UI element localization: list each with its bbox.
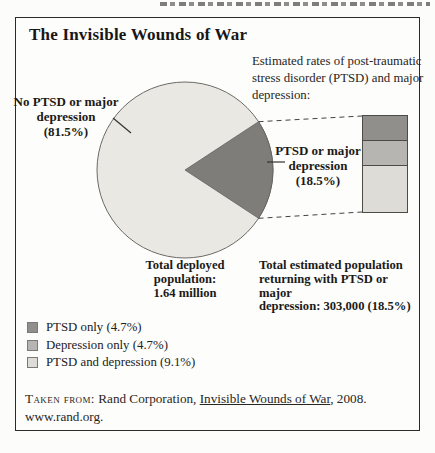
legend: PTSD only (4.7%)Depression only (4.7%)PT… [27, 319, 195, 372]
legend-swatch [27, 357, 38, 368]
source-body: Rand Corporation, [95, 391, 200, 406]
bar-segment [363, 140, 407, 165]
legend-item: Depression only (4.7%) [27, 337, 195, 355]
legend-swatch [27, 340, 38, 351]
legend-label: PTSD only (4.7%) [46, 320, 142, 335]
label-total-deployed: Total deployed population: 1.64 million [133, 259, 237, 300]
bar-segment [363, 116, 407, 140]
breakdown-bar [362, 115, 408, 213]
source-prefix: Taken from: [25, 391, 95, 406]
label-total-returning: Total estimated population returning wit… [259, 259, 423, 314]
legend-label: Depression only (4.7%) [46, 338, 168, 353]
source-suffix: , 2008. [330, 391, 366, 406]
legend-item: PTSD and depression (9.1%) [27, 354, 195, 372]
source-citation: Taken from: Rand Corporation, Invisible … [25, 390, 413, 425]
bar-segment [363, 165, 407, 212]
legend-item: PTSD only (4.7%) [27, 319, 195, 337]
legend-swatch [27, 322, 38, 333]
legend-label: PTSD and depression (9.1%) [46, 355, 195, 370]
label-no-ptsd-slice: No PTSD or major depression (81.5%) [12, 95, 120, 139]
intro-text: Estimated rates of post-traumatic stress… [252, 53, 432, 103]
figure-title: The Invisible Wounds of War [29, 25, 349, 45]
source-work-title: Invisible Wounds of War [200, 391, 331, 406]
label-ptsd-slice: PTSD or major depression (18.5%) [272, 144, 364, 188]
cropped-page-header [160, 2, 430, 6]
source-url: www.rand.org. [25, 408, 413, 426]
